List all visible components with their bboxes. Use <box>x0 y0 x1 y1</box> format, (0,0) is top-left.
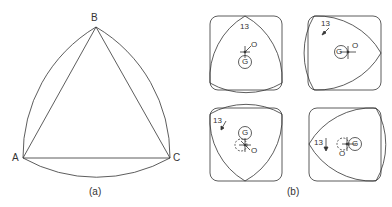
panel-number: 13 <box>213 117 222 125</box>
centroid-label: G <box>336 48 342 56</box>
square-frame <box>308 16 381 90</box>
inscribed-triangle <box>23 27 170 158</box>
figure-canvas <box>0 0 392 207</box>
vertex-label-a: A <box>12 153 19 163</box>
pivot-label: O <box>339 150 345 158</box>
panel-top-right <box>304 16 381 90</box>
centroid-label: G <box>242 58 248 66</box>
centroid-label: G <box>242 129 248 137</box>
panel-number: 13 <box>240 23 249 31</box>
caption-a: (a) <box>89 187 101 197</box>
pivot-label: O <box>352 42 358 50</box>
reuleaux-triangle-figure <box>23 27 170 177</box>
reuleaux-shape <box>304 16 381 90</box>
vertex-label-b: B <box>91 13 98 23</box>
centroid-label: G <box>352 140 358 148</box>
arc-ca <box>23 158 170 177</box>
pivot-label: O <box>251 147 257 155</box>
caption-b: (b) <box>287 187 299 197</box>
panel-number: 13 <box>314 139 323 147</box>
panel-number: 13 <box>321 20 330 28</box>
vertex-label-c: C <box>173 153 180 163</box>
pivot-label: O <box>251 41 257 49</box>
